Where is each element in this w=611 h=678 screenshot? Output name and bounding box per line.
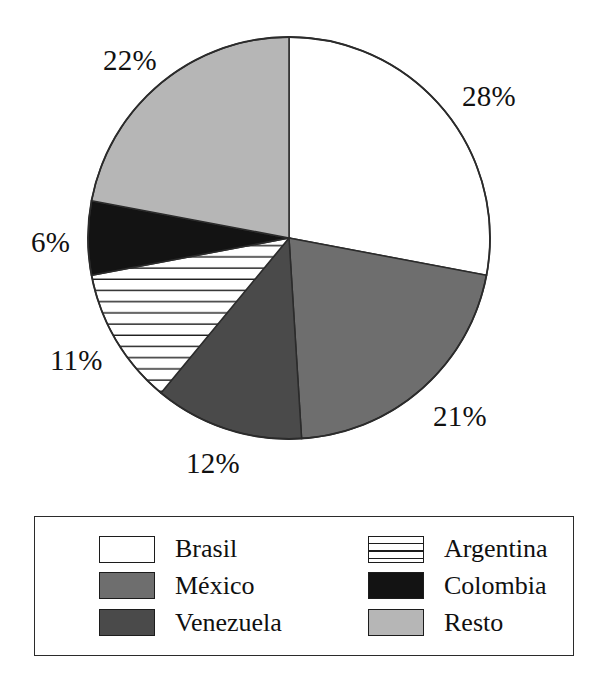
chart-legend: Brasil Argentina México Colombia Venezue… bbox=[34, 516, 574, 656]
legend-item-mexico: México bbox=[35, 572, 304, 599]
legend-label-venezuela: Venezuela bbox=[175, 610, 282, 636]
legend-label-colombia: Colombia bbox=[444, 573, 547, 599]
pie-label-venezuela: 12% bbox=[186, 449, 240, 478]
legend-label-argentina: Argentina bbox=[444, 536, 548, 562]
pie-chart: 28% 21% 12% 11% 6% 22% bbox=[0, 0, 611, 500]
legend-swatch-venezuela bbox=[99, 609, 155, 636]
pie-label-colombia: 6% bbox=[31, 228, 70, 257]
pie-slice-brasil bbox=[289, 37, 490, 275]
legend-swatch-colombia bbox=[368, 572, 424, 599]
legend-item-venezuela: Venezuela bbox=[35, 609, 304, 636]
pie-chart-graphic bbox=[0, 0, 611, 500]
legend-label-brasil: Brasil bbox=[175, 536, 237, 562]
pie-label-argentina: 11% bbox=[50, 346, 103, 375]
legend-item-argentina: Argentina bbox=[304, 536, 573, 563]
legend-swatch-mexico bbox=[99, 572, 155, 599]
legend-label-mexico: México bbox=[175, 573, 254, 599]
legend-item-brasil: Brasil bbox=[35, 536, 304, 563]
legend-item-resto: Resto bbox=[304, 609, 573, 636]
pie-label-brasil: 28% bbox=[462, 82, 516, 111]
legend-item-colombia: Colombia bbox=[304, 572, 573, 599]
legend-swatch-brasil bbox=[99, 536, 155, 563]
legend-swatch-resto bbox=[368, 609, 424, 636]
legend-swatch-argentina bbox=[368, 536, 424, 563]
pie-label-mexico: 21% bbox=[433, 402, 487, 431]
legend-label-resto: Resto bbox=[444, 610, 503, 636]
pie-label-resto: 22% bbox=[103, 46, 157, 75]
